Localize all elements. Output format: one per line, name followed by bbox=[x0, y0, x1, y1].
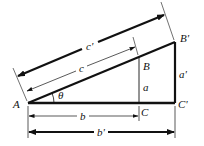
label-B-prime: B' bbox=[180, 32, 190, 44]
label-C: C bbox=[141, 106, 149, 118]
angle-theta-arc bbox=[52, 93, 54, 103]
label-C-prime: C' bbox=[178, 98, 188, 110]
c-prime-extension-right bbox=[161, 2, 174, 40]
label-c: c bbox=[79, 62, 84, 74]
c-prime-arrow-right bbox=[98, 15, 164, 42]
label-c-prime: c' bbox=[86, 40, 94, 52]
label-B: B bbox=[143, 60, 150, 72]
c-extension-right bbox=[133, 37, 138, 55]
similar-triangles-diagram: c' c θ A B B' C C' a a' b b' bbox=[0, 0, 204, 146]
label-a: a bbox=[143, 81, 149, 93]
hypotenuse-AB-prime bbox=[28, 42, 175, 103]
label-theta: θ bbox=[58, 89, 64, 101]
label-b-prime: b' bbox=[97, 126, 106, 138]
label-a-prime: a' bbox=[179, 68, 188, 80]
label-b: b bbox=[80, 110, 86, 122]
label-A: A bbox=[12, 98, 20, 110]
c-prime-arrow-left bbox=[18, 49, 82, 76]
c-arrow-left bbox=[27, 71, 76, 91]
c-arrow-right bbox=[87, 47, 135, 66]
